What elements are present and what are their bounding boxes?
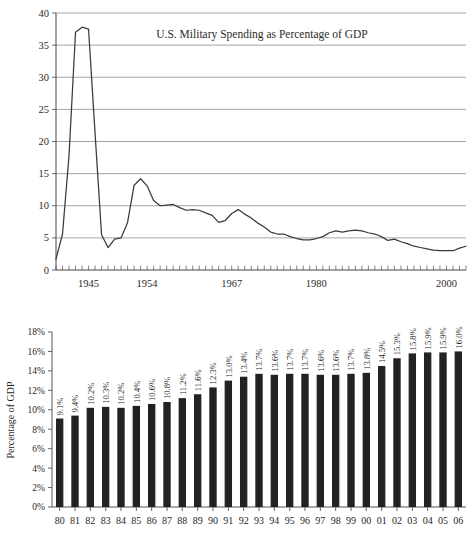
bar-chart-value-label: 13.4%	[239, 352, 249, 374]
bar-chart-x-tick-label: 91	[223, 515, 233, 526]
bar-chart-bar	[163, 402, 170, 507]
bar-chart-value-label: 13.7%	[346, 349, 356, 371]
bar-chart-x-tick-label: 81	[70, 515, 80, 526]
figure-page: 0510152025303540 19451954196719802000 U.…	[0, 0, 472, 544]
line-chart-title: U.S. Military Spending as Percentage of …	[156, 28, 367, 41]
bar-chart-bar	[194, 394, 201, 507]
line-chart-x-tick-label: 1954	[137, 278, 159, 289]
line-chart-y-tick-label: 0	[44, 265, 49, 276]
bar-chart-y-axis-title: Percentage of GDP	[5, 381, 16, 459]
bar-chart-value-label: 15.9%	[423, 327, 433, 349]
bar-chart-x-tick-label: 93	[254, 515, 264, 526]
bar-chart-y-tick-label: 4%	[32, 464, 45, 474]
bar-chart-bar	[71, 416, 78, 507]
bar-chart-value-label: 15.9%	[438, 327, 448, 349]
line-chart-y-tick-label: 40	[39, 8, 50, 19]
bar-chart-value-label: 14.5%	[377, 341, 387, 363]
bar-chart-y-ticks	[48, 332, 52, 507]
bar-chart-bar	[393, 358, 400, 507]
line-chart-y-tick-label: 5	[44, 232, 49, 243]
bar-chart-bar	[209, 387, 216, 507]
bar-chart-y-tick-label: 8%	[32, 425, 45, 435]
line-chart-y-tick-label: 10	[39, 200, 50, 211]
bar-chart-value-label: 13.6%	[270, 350, 280, 372]
bar-chart-x-tick-label: 80	[55, 515, 65, 526]
bar-chart-bar	[255, 374, 262, 507]
bar-chart-x-tick-label: 05	[438, 515, 448, 526]
line-chart-y-tick-label: 20	[39, 136, 50, 147]
bar-chart-x-ticks	[60, 507, 459, 511]
bar-chart-bars	[56, 351, 462, 507]
line-chart-y-tick-label: 25	[39, 104, 50, 115]
bar-chart-value-label: 15.8%	[408, 328, 418, 350]
bar-chart-value-label: 11.6%	[193, 369, 203, 391]
bar-chart-y-tick-label: 18%	[28, 327, 46, 337]
bar-chart-x-tick-label: 03	[407, 515, 417, 526]
bar-chart-x-tick-label: 99	[346, 515, 356, 526]
bar-chart-x-tick-label: 83	[101, 515, 111, 526]
bar-chart-x-tick-label: 87	[162, 515, 172, 526]
line-chart-figure: 0510152025303540 19451954196719802000 U.…	[0, 0, 472, 306]
bar-chart-x-tick-label: 95	[285, 515, 295, 526]
bar-chart-y-tick-label: 6%	[32, 444, 45, 454]
bar-chart-value-label: 10.6%	[147, 379, 157, 401]
bar-chart-bar	[455, 351, 462, 507]
bar-chart-bar	[225, 381, 232, 507]
bar-chart-x-tick-label: 06	[453, 515, 463, 526]
bar-chart-bar	[424, 352, 431, 507]
bar-chart-bar	[409, 353, 416, 507]
bar-chart-x-tick-label: 86	[147, 515, 157, 526]
bar-chart-y-tick-label: 14%	[28, 366, 46, 376]
bar-chart-y-tick-label: 16%	[28, 347, 46, 357]
bar-chart-value-label: 13.7%	[300, 349, 310, 371]
bar-chart-x-tick-label: 88	[177, 515, 187, 526]
line-chart-x-tick-label: 2000	[436, 278, 457, 289]
bar-chart-value-label: 10.2%	[116, 383, 126, 405]
bar-chart-x-tick-label: 97	[315, 515, 325, 526]
line-chart-svg: 0510152025303540 19451954196719802000 U.…	[0, 0, 472, 306]
bar-chart-value-label: 10.2%	[86, 383, 96, 405]
bar-chart-svg: 0%2%4%6%8%10%12%14%16%18% 9.1%9.4%10.2%1…	[0, 306, 472, 544]
bar-chart-bar	[133, 406, 140, 507]
bar-chart-value-label: 15.3%	[392, 333, 402, 355]
bar-chart-x-tick-label: 98	[331, 515, 341, 526]
line-chart-y-tick-label: 30	[39, 72, 50, 83]
line-chart-gridlines	[56, 13, 466, 238]
bar-chart-value-label: 13.8%	[362, 348, 372, 370]
line-chart-x-tick-label: 1945	[78, 278, 99, 289]
bar-chart-x-tick-labels: 8081828384858687888990919293949596979899…	[55, 515, 464, 526]
line-chart-y-tick-label: 15	[39, 168, 50, 179]
bar-chart-x-tick-label: 92	[239, 515, 249, 526]
bar-chart-x-tick-label: 02	[392, 515, 402, 526]
line-chart-x-tick-labels: 19451954196719802000	[78, 278, 457, 289]
bar-chart-x-tick-label: 04	[423, 515, 433, 526]
bar-chart-bar	[363, 373, 370, 507]
bar-chart-bar	[317, 375, 324, 507]
bar-chart-bar	[148, 404, 155, 507]
bar-chart-x-tick-label: 89	[193, 515, 203, 526]
bar-chart-y-tick-label: 2%	[32, 483, 45, 493]
bar-chart-x-tick-label: 82	[85, 515, 95, 526]
bar-chart-x-tick-label: 96	[300, 515, 310, 526]
bar-chart-y-tick-labels: 0%2%4%6%8%10%12%14%16%18%	[28, 327, 46, 512]
bar-chart-x-tick-label: 85	[131, 515, 141, 526]
bar-chart-bar	[117, 408, 124, 507]
bar-chart-value-label: 10.3%	[101, 382, 111, 404]
line-chart-x-tick-label: 1980	[306, 278, 327, 289]
bar-chart-value-label: 13.6%	[331, 350, 341, 372]
line-chart-x-tick-label: 1967	[221, 278, 242, 289]
bar-chart-bar	[378, 366, 385, 507]
bar-chart-bar	[56, 419, 63, 507]
bar-chart-value-label: 13.7%	[254, 349, 264, 371]
bar-chart-bar	[179, 398, 186, 507]
line-chart-x-minor-ticks	[56, 266, 466, 271]
bar-chart-bar	[240, 377, 247, 507]
bar-chart-x-tick-label: 94	[269, 515, 279, 526]
line-chart-y-ticks	[52, 13, 56, 270]
bar-chart-value-label: 11.2%	[178, 373, 188, 395]
bar-chart-value-label: 13.0%	[224, 355, 234, 377]
bar-chart-bar	[301, 374, 308, 507]
bar-chart-bar	[271, 375, 278, 507]
line-chart-y-tick-label: 35	[39, 40, 50, 51]
bar-chart-value-label: 13.6%	[316, 350, 326, 372]
